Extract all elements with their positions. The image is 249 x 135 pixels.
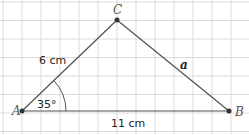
vertex-c-point (115, 18, 120, 23)
grid-background (0, 0, 249, 135)
side-bc-variable-label: a (180, 58, 188, 72)
vertex-b-label: B (234, 105, 244, 119)
vertex-b-point (227, 109, 232, 114)
side-ab-length-label: 11 cm (111, 117, 145, 130)
vertex-a-label: A (11, 104, 21, 118)
triangle-diagram: A B C 6 cm 11 cm a 35° (0, 0, 249, 135)
angle-a-label: 35° (37, 98, 57, 111)
side-ac-length-label: 6 cm (39, 54, 66, 67)
vertex-c-label: C (113, 3, 122, 17)
